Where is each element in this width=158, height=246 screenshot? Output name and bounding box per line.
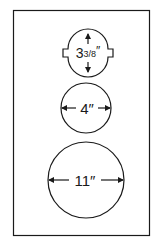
- diagram-canvas: 33/8″ 4″ 11″: [0, 0, 158, 246]
- large-circle-shape: 11″: [48, 142, 124, 218]
- notched-circle-label: 33/8″: [76, 44, 101, 61]
- medium-circle-label: 4″: [80, 100, 94, 117]
- medium-circle-shape: 4″: [61, 83, 111, 133]
- large-circle-label: 11″: [75, 172, 97, 189]
- notched-circle-shape: 33/8″: [63, 29, 113, 77]
